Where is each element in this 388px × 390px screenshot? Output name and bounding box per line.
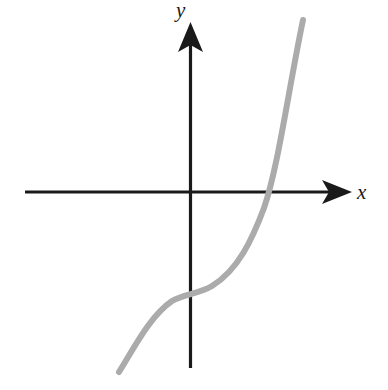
graph-figure: y x [0, 0, 388, 390]
x-axis-label: x [357, 182, 366, 203]
plot-canvas [0, 0, 388, 390]
y-axis-label: y [176, 0, 185, 21]
cubic-curve [119, 20, 303, 372]
